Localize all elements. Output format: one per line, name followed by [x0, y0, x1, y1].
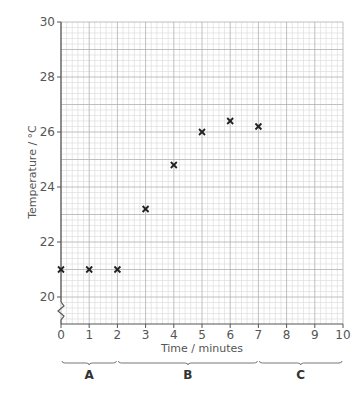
y-tick-label: 24	[40, 180, 55, 194]
x-tick-label: 5	[198, 328, 206, 342]
grid-major-lines	[61, 22, 343, 324]
y-tick-label: 30	[40, 15, 55, 29]
y-tick-label: 22	[40, 235, 55, 249]
region-bracket-c: C	[259, 361, 342, 382]
x-axis-ticks: 012345678910	[57, 324, 350, 342]
x-tick-label: 8	[283, 328, 291, 342]
x-tick-label: 9	[311, 328, 319, 342]
x-axis-title: Time / minutes	[160, 342, 243, 355]
x-tick-label: 7	[255, 328, 263, 342]
y-tick-label: 20	[40, 290, 55, 304]
temperature-time-chart: 202224262830 012345678910 ABC Time / min…	[0, 0, 364, 393]
y-axis-ticks: 202224262830	[40, 15, 61, 304]
y-axis-title: Temperature / °C	[26, 125, 39, 220]
region-label: C	[296, 368, 305, 382]
x-tick-label: 2	[114, 328, 122, 342]
x-tick-label: 1	[85, 328, 93, 342]
region-bracket-a: A	[62, 361, 116, 382]
x-tick-label: 4	[170, 328, 178, 342]
x-tick-label: 10	[335, 328, 350, 342]
x-tick-label: 6	[226, 328, 234, 342]
y-tick-label: 28	[40, 70, 55, 84]
y-tick-label: 26	[40, 125, 55, 139]
region-brackets: ABC	[62, 361, 342, 382]
x-tick-label: 0	[57, 328, 65, 342]
x-tick-label: 3	[142, 328, 150, 342]
region-label: B	[183, 368, 192, 382]
data-points	[58, 118, 261, 273]
region-label: A	[85, 368, 95, 382]
region-bracket-b: B	[118, 361, 257, 382]
